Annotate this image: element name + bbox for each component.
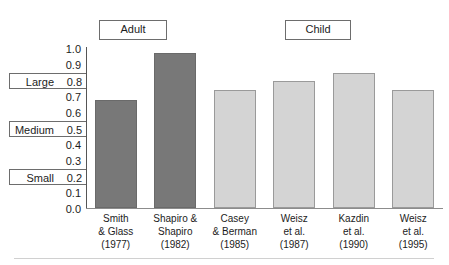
y-axis-tick: 0.0 xyxy=(0,201,86,217)
x-axis-label-line: (1985) xyxy=(205,238,265,251)
x-axis-label: Smith& Glass(1977) xyxy=(86,212,146,251)
y-axis-tick-value: 0.4 xyxy=(66,137,81,153)
y-axis-tick-value: 0.1 xyxy=(66,185,81,201)
y-axis-band-small: Small0.2 xyxy=(9,169,86,185)
bar xyxy=(273,81,315,208)
x-axis-label-line: Weisz xyxy=(384,212,444,225)
bar xyxy=(154,53,196,208)
effect-size-bar-chart: Adult Child 1.00.9Large0.80.70.6Medium0.… xyxy=(0,0,449,265)
footer-divider xyxy=(14,258,434,259)
x-axis-label-line: (1987) xyxy=(265,238,325,251)
y-axis-tick: 0.4 xyxy=(0,137,86,153)
x-axis: Smith& Glass(1977)Shapiro &Shapiro(1982)… xyxy=(86,212,443,260)
x-axis-label-line: et al. xyxy=(384,225,444,238)
bar xyxy=(392,90,434,208)
x-axis-label-line: (1982) xyxy=(146,238,206,251)
x-axis-label: Kazdinet al.(1990) xyxy=(324,212,384,251)
group-label-adult-text: Adult xyxy=(120,23,145,35)
y-axis-tick-value: 0.3 xyxy=(66,153,81,169)
y-axis-band-label: Large xyxy=(26,74,54,90)
x-axis-label: Weiszet al.(1995) xyxy=(384,212,444,251)
y-axis-tick: 0.6 xyxy=(0,105,86,121)
bar xyxy=(214,90,256,208)
y-axis-tick: 0.1 xyxy=(0,185,86,201)
y-axis-tick: 0.3 xyxy=(0,153,86,169)
group-label-child: Child xyxy=(285,20,351,40)
x-axis-label-line: et al. xyxy=(324,225,384,238)
y-axis-tick: 0.9 xyxy=(0,57,86,73)
x-axis-label-line: Shapiro & xyxy=(146,212,206,225)
x-axis-label-line: & Berman xyxy=(205,225,265,238)
group-label-adult: Adult xyxy=(99,20,167,40)
x-axis-label-line: (1990) xyxy=(324,238,384,251)
x-axis-label-line: et al. xyxy=(265,225,325,238)
y-axis-tick-value: 0.5 xyxy=(67,122,82,138)
y-axis-band-medium: Medium0.5 xyxy=(9,121,86,137)
y-axis-tick: 0.7 xyxy=(0,89,86,105)
group-label-child-text: Child xyxy=(305,23,330,35)
y-axis-tick-value: 0.8 xyxy=(67,74,82,90)
x-axis-label-line: Weisz xyxy=(265,212,325,225)
x-axis-label-line: & Glass xyxy=(86,225,146,238)
x-axis-label: Casey& Berman(1985) xyxy=(205,212,265,251)
y-axis-tick-value: 0.6 xyxy=(66,105,81,121)
y-axis-tick: 1.0 xyxy=(0,41,86,57)
x-axis-label: Shapiro &Shapiro(1982) xyxy=(146,212,206,251)
y-axis-band-large: Large0.8 xyxy=(9,73,86,89)
x-axis-label-line: Smith xyxy=(86,212,146,225)
x-axis-label: Weiszet al.(1987) xyxy=(265,212,325,251)
bar xyxy=(95,100,137,208)
y-axis: 1.00.9Large0.80.70.6Medium0.50.40.3Small… xyxy=(0,41,86,217)
x-axis-label-line: Casey xyxy=(205,212,265,225)
bar xyxy=(333,73,375,208)
y-axis-band-label: Small xyxy=(26,170,54,186)
y-axis-tick-value: 0.7 xyxy=(66,89,81,105)
x-axis-baseline xyxy=(86,208,443,209)
x-axis-label-line: Shapiro xyxy=(146,225,206,238)
y-axis-tick-value: 1.0 xyxy=(66,41,81,57)
x-axis-label-line: Kazdin xyxy=(324,212,384,225)
x-axis-label-line: (1995) xyxy=(384,238,444,251)
y-axis-tick-value: 0.9 xyxy=(66,57,81,73)
y-axis-tick-value: 0.2 xyxy=(67,170,82,186)
y-axis-band-label: Medium xyxy=(15,122,54,138)
plot-area xyxy=(86,47,443,208)
x-axis-label-line: (1977) xyxy=(86,238,146,251)
y-axis-tick-value: 0.0 xyxy=(66,201,81,217)
